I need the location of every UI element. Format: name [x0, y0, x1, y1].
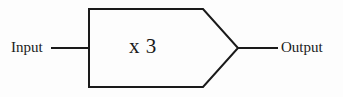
- input-port-label: Input: [11, 40, 43, 55]
- multiplier-block-label: x 3: [129, 36, 157, 57]
- multiplier-block-shape[interactable]: [89, 9, 238, 87]
- output-port-label: Output: [281, 40, 323, 55]
- block-diagram-canvas: Input x 3 Output: [0, 0, 343, 97]
